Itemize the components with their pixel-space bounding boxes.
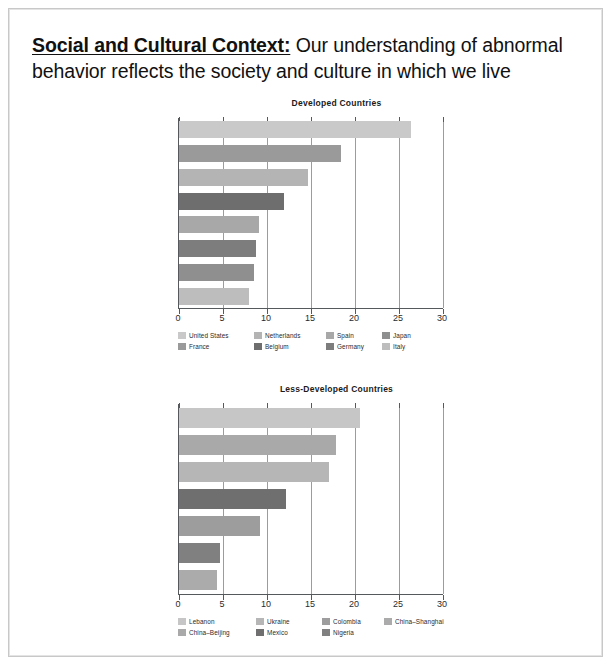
legend-swatch xyxy=(254,332,262,339)
legend-label: Nigeria xyxy=(333,628,354,637)
legend-label: Spain xyxy=(337,331,354,340)
page-frame: Social and Cultural Context: Our underst… xyxy=(8,8,603,657)
gridline xyxy=(443,404,444,594)
bar xyxy=(179,240,256,257)
axis-tick-label: 30 xyxy=(437,599,447,609)
bar xyxy=(179,145,341,162)
legend-item[interactable]: China–Beijing xyxy=(178,628,256,637)
axis-tick-label: 25 xyxy=(393,599,403,609)
gridline xyxy=(399,118,400,308)
bar xyxy=(179,462,329,482)
bar xyxy=(179,543,220,563)
legend-swatch xyxy=(326,343,334,350)
gridline xyxy=(443,118,444,308)
legend-swatch xyxy=(326,332,334,339)
page-title: Social and Cultural Context: Our underst… xyxy=(32,32,588,84)
bar xyxy=(179,489,286,509)
legend-label: China–Beijing xyxy=(189,628,230,637)
axis-tick-label: 10 xyxy=(261,599,271,609)
gridline xyxy=(399,404,400,594)
axis-tick-label: 15 xyxy=(305,313,315,323)
legend-row: United StatesNetherlandsSpainJapan xyxy=(178,330,458,341)
axis-tick xyxy=(399,403,400,408)
bar xyxy=(179,193,284,210)
legend-item[interactable]: Netherlands xyxy=(254,331,326,340)
legend-swatch xyxy=(384,618,392,625)
chart-title: Less-Developed Countries xyxy=(10,384,611,394)
legend-label: Lebanon xyxy=(189,617,215,626)
legend-item[interactable]: Nigeria xyxy=(322,628,384,637)
legend-item[interactable]: Mexico xyxy=(256,628,322,637)
plot-area xyxy=(178,118,443,309)
bar xyxy=(179,516,260,536)
axis-tick-label: 15 xyxy=(305,599,315,609)
legend-label: China–Shanghai xyxy=(395,617,444,626)
axis-tick-label: 20 xyxy=(349,313,359,323)
axis-tick-label: 25 xyxy=(393,313,403,323)
legend-swatch xyxy=(256,629,264,636)
chart-title: Developed Countries xyxy=(10,98,611,108)
legend-label: Mexico xyxy=(267,628,288,637)
legend-item[interactable]: Spain xyxy=(326,331,382,340)
legend-label: Japan xyxy=(393,331,411,340)
legend-swatch xyxy=(178,629,186,636)
bar xyxy=(179,264,254,281)
legend-label: France xyxy=(189,342,210,351)
legend-row: China–BeijingMexicoNigeria xyxy=(178,627,458,638)
plot-area xyxy=(178,404,443,595)
legend-swatch xyxy=(256,618,264,625)
legend-swatch xyxy=(322,618,330,625)
bar xyxy=(179,435,336,455)
legend-item[interactable]: Belgium xyxy=(254,342,326,351)
legend-item[interactable]: Japan xyxy=(382,331,432,340)
bar xyxy=(179,216,259,233)
x-axis-labels: 051015202530 xyxy=(178,599,442,613)
legend-label: Netherlands xyxy=(265,331,301,340)
legend-label: Ukraine xyxy=(267,617,290,626)
legend-item[interactable]: Germany xyxy=(326,342,382,351)
legend-label: Italy xyxy=(393,342,405,351)
legend-item[interactable]: China–Shanghai xyxy=(384,617,454,626)
legend-swatch xyxy=(382,332,390,339)
legend-swatch xyxy=(322,629,330,636)
legend-item[interactable]: Lebanon xyxy=(178,617,256,626)
axis-tick-label: 0 xyxy=(175,599,180,609)
legend-item[interactable]: Ukraine xyxy=(256,617,322,626)
axis-tick-label: 20 xyxy=(349,599,359,609)
legend-item[interactable]: France xyxy=(178,342,254,351)
slide-canvas: Social and Cultural Context: Our underst… xyxy=(0,0,611,665)
legend-row: FranceBelgiumGermanyItaly xyxy=(178,341,458,352)
axis-tick xyxy=(443,117,444,122)
legend-swatch xyxy=(254,343,262,350)
legend-row: LebanonUkraineColombiaChina–Shanghai xyxy=(178,616,458,627)
bar xyxy=(179,570,217,590)
legend-swatch xyxy=(178,618,186,625)
bar xyxy=(179,169,308,186)
axis-tick-label: 30 xyxy=(437,313,447,323)
x-axis-labels: 051015202530 xyxy=(178,313,442,327)
chart-legend: LebanonUkraineColombiaChina–ShanghaiChin… xyxy=(178,616,458,638)
legend-item[interactable]: United States xyxy=(178,331,254,340)
bar xyxy=(179,288,249,305)
legend-swatch xyxy=(178,343,186,350)
axis-tick-label: 0 xyxy=(175,313,180,323)
legend-label: Colombia xyxy=(333,617,361,626)
gridline xyxy=(355,404,356,594)
legend-label: Germany xyxy=(337,342,364,351)
legend-label: United States xyxy=(189,331,229,340)
gridline xyxy=(311,404,312,594)
axis-tick-label: 10 xyxy=(261,313,271,323)
bar xyxy=(179,408,360,428)
heading-lead: Social and Cultural Context: xyxy=(32,34,290,56)
gridline xyxy=(355,118,356,308)
axis-tick xyxy=(443,403,444,408)
chart-legend: United StatesNetherlandsSpainJapanFrance… xyxy=(178,330,458,352)
legend-swatch xyxy=(178,332,186,339)
legend-swatch xyxy=(382,343,390,350)
axis-tick-label: 5 xyxy=(219,599,224,609)
bar xyxy=(179,121,411,138)
legend-item[interactable]: Colombia xyxy=(322,617,384,626)
legend-label: Belgium xyxy=(265,342,289,351)
legend-item[interactable]: Italy xyxy=(382,342,432,351)
axis-tick-label: 5 xyxy=(219,313,224,323)
